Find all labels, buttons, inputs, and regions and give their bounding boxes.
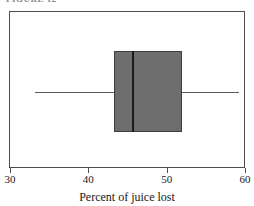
- whisker-left: [35, 92, 114, 93]
- x-axis-tick-label: 60: [240, 173, 251, 185]
- x-axis: 30405060 Percent of juice lost: [0, 168, 254, 206]
- median-line: [132, 51, 134, 132]
- boxplot-figure: 30405060 Percent of juice lost: [0, 0, 254, 206]
- x-axis-tick-label: 50: [161, 173, 172, 185]
- x-axis-tick-label: 30: [5, 173, 16, 185]
- x-axis-title: Percent of juice lost: [0, 190, 254, 205]
- box-iqr: [114, 51, 181, 132]
- whisker-right: [182, 92, 239, 93]
- plot-frame: [9, 11, 245, 168]
- x-axis-tick-label: 40: [83, 173, 94, 185]
